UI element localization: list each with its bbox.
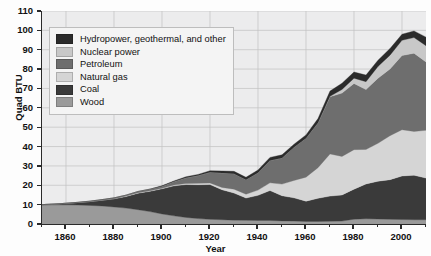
x-tick-mark	[304, 225, 305, 229]
x-minor-tick	[137, 225, 138, 227]
x-minor-tick	[425, 225, 426, 227]
x-minor-tick	[89, 225, 90, 227]
x-tick-label: 1940	[237, 231, 277, 242]
y-tick-label: 40	[3, 141, 33, 152]
legend-item[interactable]: Coal	[56, 83, 226, 96]
legend-label: Petroleum	[80, 58, 122, 71]
x-tick-mark	[352, 225, 353, 229]
y-tick-mark	[37, 185, 41, 186]
legend-label: Coal	[80, 83, 99, 96]
x-tick-mark	[64, 225, 65, 229]
x-tick-label: 1880	[93, 231, 133, 242]
x-minor-tick	[185, 225, 186, 227]
legend-label: Hydropower, geothermal, and other	[80, 33, 226, 46]
legend-item[interactable]: Wood	[56, 96, 226, 109]
legend-label: Natural gas	[80, 71, 128, 84]
y-tick-label: 60	[3, 102, 33, 113]
x-tick-label: 1960	[285, 231, 325, 242]
legend-swatch-1	[56, 47, 73, 57]
x-minor-tick	[329, 225, 330, 227]
y-tick-mark	[37, 10, 41, 11]
y-tick-label: 20	[3, 179, 33, 190]
y-tick-label: 30	[3, 160, 33, 171]
y-tick-mark	[37, 68, 41, 69]
legend-swatch-3	[56, 72, 73, 82]
y-tick-label: 0	[3, 218, 33, 229]
x-tick-mark	[400, 225, 401, 229]
y-tick-label: 80	[3, 63, 33, 74]
x-tick-label: 1980	[333, 231, 373, 242]
x-tick-label: 2000	[381, 231, 421, 242]
legend-item[interactable]: Natural gas	[56, 71, 226, 84]
x-tick-mark	[256, 225, 257, 229]
y-tick-label: 70	[3, 82, 33, 93]
legend-swatch-2	[56, 59, 73, 69]
y-tick-label: 100	[3, 24, 33, 35]
x-tick-label: 1900	[141, 231, 181, 242]
x-tick-mark	[160, 225, 161, 229]
y-tick-mark	[37, 146, 41, 147]
y-tick-mark	[37, 204, 41, 205]
x-minor-tick	[233, 225, 234, 227]
y-tick-mark	[37, 165, 41, 166]
y-tick-label: 50	[3, 121, 33, 132]
y-tick-label: 10	[3, 199, 33, 210]
x-minor-tick	[41, 225, 42, 227]
x-minor-tick	[281, 225, 282, 227]
y-tick-label: 90	[3, 44, 33, 55]
x-tick-mark	[112, 225, 113, 229]
legend-item[interactable]: Hydropower, geothermal, and other	[56, 33, 226, 46]
y-tick-mark	[37, 49, 41, 50]
chart-root: Quad BTU 0102030405060708090100110186018…	[0, 0, 431, 256]
legend-swatch-0	[56, 34, 73, 44]
x-minor-tick	[377, 225, 378, 227]
legend-swatch-5	[56, 97, 73, 107]
x-tick-label: 1860	[45, 231, 85, 242]
chart-legend: Hydropower, geothermal, and other Nuclea…	[49, 27, 234, 115]
y-tick-mark	[37, 88, 41, 89]
x-tick-mark	[208, 225, 209, 229]
x-axis-title: Year	[0, 243, 431, 254]
legend-item[interactable]: Nuclear power	[56, 46, 226, 59]
legend-item[interactable]: Petroleum	[56, 58, 226, 71]
legend-swatch-4	[56, 85, 73, 95]
y-tick-mark	[37, 127, 41, 128]
legend-label: Nuclear power	[80, 46, 140, 59]
y-tick-mark	[37, 30, 41, 31]
x-tick-label: 1920	[189, 231, 229, 242]
legend-label: Wood	[80, 96, 104, 109]
y-tick-label: 110	[3, 5, 33, 16]
y-tick-mark	[37, 107, 41, 108]
